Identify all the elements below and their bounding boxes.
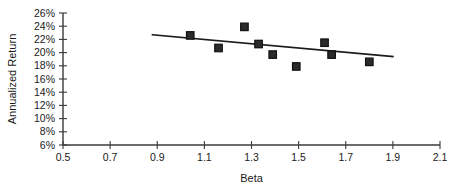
- x-tick-label: 2.1: [433, 151, 448, 163]
- data-point-marker: [366, 58, 374, 65]
- y-tick-label: 6%: [40, 139, 55, 151]
- y-tick-label: 18%: [34, 59, 55, 71]
- data-point-marker: [328, 51, 336, 59]
- y-tick-label: 22%: [34, 33, 55, 45]
- x-tick-label: 1.7: [338, 151, 353, 163]
- y-axis-title: Annualized Return: [6, 34, 18, 125]
- x-tick-label: 1.3: [244, 151, 259, 163]
- data-point-marker: [293, 63, 301, 71]
- chart-canvas: 6%8%10%12%14%16%18%20%22%24%26%0.50.70.9…: [0, 0, 457, 187]
- x-tick-label: 0.7: [103, 151, 118, 163]
- y-tick-label: 16%: [34, 73, 55, 85]
- data-point-marker: [215, 44, 223, 52]
- y-tick-label: 24%: [34, 20, 55, 32]
- y-tick-label: 8%: [40, 125, 55, 137]
- y-tick-label: 10%: [34, 112, 55, 124]
- x-tick-label: 1.5: [291, 151, 306, 163]
- data-point-marker: [321, 39, 329, 47]
- x-tick-label: 0.9: [150, 151, 165, 163]
- x-tick-label: 1.1: [197, 151, 212, 163]
- y-tick-label: 14%: [34, 86, 55, 98]
- x-tick-label: 0.5: [56, 151, 71, 163]
- data-point-marker: [255, 40, 263, 48]
- scatter-chart: 6%8%10%12%14%16%18%20%22%24%26%0.50.70.9…: [0, 0, 457, 187]
- x-tick-label: 1.9: [386, 151, 401, 163]
- data-point-marker: [186, 32, 194, 40]
- y-tick-label: 20%: [34, 46, 55, 58]
- data-point-marker: [241, 23, 249, 31]
- data-point-marker: [269, 51, 277, 59]
- y-tick-label: 26%: [34, 7, 55, 19]
- y-tick-label: 12%: [34, 99, 55, 111]
- x-axis-title: Beta: [240, 172, 264, 184]
